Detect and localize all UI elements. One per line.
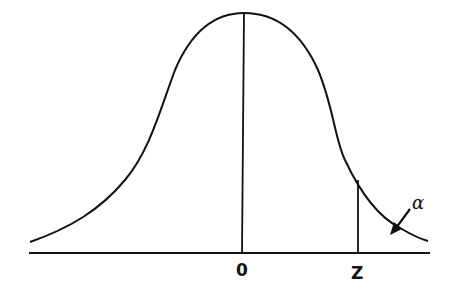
mean-label: 0 [236,260,248,280]
mean-line [242,13,244,253]
alpha-arrow [396,209,410,228]
bell-curve [30,13,428,242]
z-label: Z [351,263,363,283]
alpha-label: α [412,192,424,213]
normal-curve-diagram: 0 Z α [0,0,451,307]
